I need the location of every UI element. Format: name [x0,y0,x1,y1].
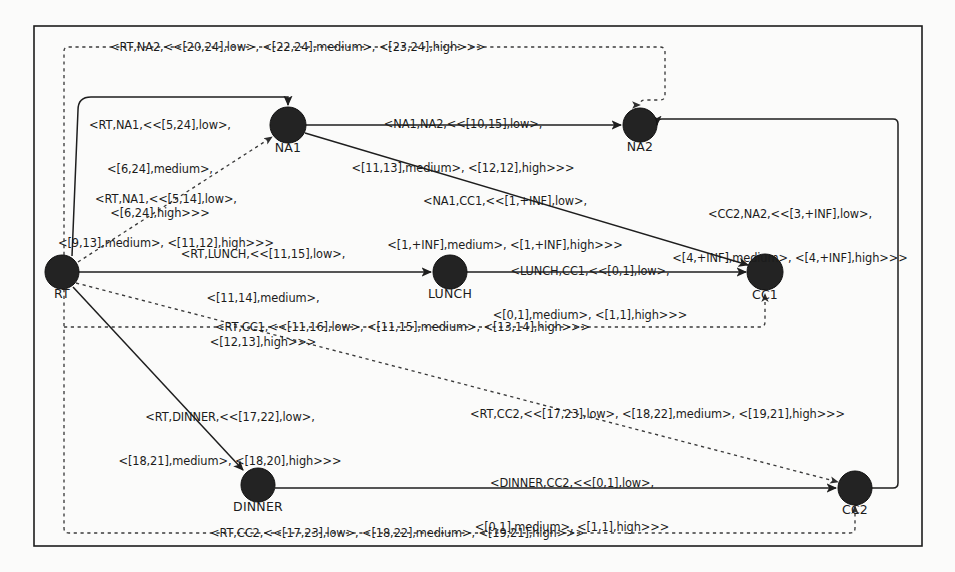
node-label-na2: NA2 [627,139,653,154]
node-cc2[interactable] [838,471,872,505]
edge-label-cc2-na2: <CC2,NA2,<<[3,+INF],low>, <[4,+INF],medi… [672,178,907,295]
node-label-lunch: LUNCH [428,286,472,301]
edge-label-line: <[11,14],medium>, [181,291,345,306]
node-label-cc2: CC2 [842,502,868,517]
node-label-na1: NA1 [275,140,301,155]
edge-label-rt-dinner: <RT,DINNER,<<[17,22],low>, <[18,21],medi… [119,381,342,498]
node-label-dinner: DINNER [233,499,283,514]
node-label-rt: RT [54,286,70,301]
edge-label-rt-cc2-bottom: <RT,CC2,<<[17,23],low>, <[18,22],medium>… [210,526,585,541]
edge-label-line: <DINNER,CC2,<<[0,1],low>, [475,476,669,491]
edge-label-rt-lunch: <RT,LUNCH,<<[11,15],low>, <[11,14],mediu… [181,218,345,379]
edge-label-line: <LUNCH,CC1,<<[0,1],low>, [493,264,687,279]
edge-label-line: <RT,DINNER,<<[17,22],low>, [119,410,342,425]
edge-label-line: <NA1,NA2,<<[10,15],low>, [352,117,575,132]
edge-label-rt-na2: <RT,NA2,<<[20,24],low>, <[22,24],medium>… [110,40,485,55]
node-na1[interactable] [270,107,306,143]
edge-label-line: <RT,NA1,<<[5,24],low>, [89,118,231,133]
node-na2[interactable] [623,108,657,142]
edge-label-line: <NA1,CC1,<<[1,+INF],low>, [387,194,622,209]
edge-label-line: <[4,+INF],medium>, <[4,+INF],high>>> [672,251,907,266]
edge-cc2-na2 [657,119,898,488]
edge-label-rt-cc1: <RT,CC1,<<[11,16],low>, <[11,15],medium>… [215,320,590,335]
edge-label-line: <CC2,NA2,<<[3,+INF],low>, [672,207,907,222]
edge-label-line: <[12,13],high>>> [181,335,345,350]
diagram-canvas: RT NA1 NA2 LUNCH CC1 DINNER CC2 <RT,NA2,… [0,0,955,572]
edge-label-line: <[18,21],medium>, <[18,20],high>>> [119,454,342,469]
edge-label-rt-cc2-diagonal: <RT,CC2,<<[17,23],low>, <[18,22],medium>… [470,407,845,422]
edge-label-line: <RT,LUNCH,<<[11,15],low>, [181,247,345,262]
edge-label-line: <RT,NA1,<<[5,14],low>, [58,192,274,207]
edge-label-dinner-cc2: <DINNER,CC2,<<[0,1],low>, <[0,1],medium>… [475,447,669,564]
